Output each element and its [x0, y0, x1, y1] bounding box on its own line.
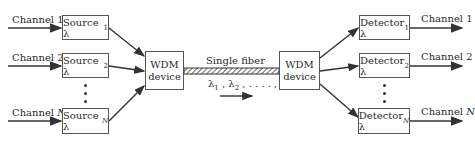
ellipsis-dot-icon: [84, 92, 87, 95]
output-channel-n-label: Channel N: [421, 106, 475, 118]
detector-n-label: Detector λ: [359, 110, 403, 132]
detector-n-subscript: N: [403, 117, 409, 125]
wdm-mux-box: WDM device: [145, 51, 184, 90]
ellipsis-dot-icon: [383, 100, 386, 103]
source-1-label: Source λ: [63, 17, 104, 39]
output-channel-1-text: Channel 1: [421, 13, 473, 24]
output-channel-n-index: N: [466, 106, 475, 117]
detector-1-subscript: 1: [405, 24, 409, 32]
output-channel-2-text: Channel 2: [421, 51, 473, 62]
output-channel-2-label: Channel 2: [421, 51, 473, 63]
detector-1-label: Detector λ: [360, 17, 405, 39]
source-2-subscript: 2: [104, 62, 108, 70]
wdm-demux-line1: WDM: [285, 59, 314, 71]
input-channel-n-text: Channel: [12, 107, 57, 118]
detector-box-1: Detector λ1: [359, 15, 410, 40]
detector-box-n: Detector λN: [358, 108, 410, 134]
source-box-2: Source λ2: [62, 53, 109, 78]
ellipsis-dot-icon: [84, 84, 87, 87]
input-channel-1-text: Channel 1: [12, 14, 64, 25]
detector-2-label: Detector λ: [360, 55, 405, 77]
ellipsis-dot-icon: [383, 84, 386, 87]
input-channel-n-label: Channel N: [12, 107, 66, 119]
wdm-demux-box: WDM device: [279, 51, 320, 90]
ellipsis-dot-icon: [383, 92, 386, 95]
ellipsis-dot-icon: [84, 100, 87, 103]
output-channel-n-text: Channel: [421, 106, 466, 117]
source-n-subscript: N: [102, 117, 108, 125]
source-box-1: Source λ1: [62, 15, 109, 40]
wdm-mux-line1: WDM: [150, 59, 179, 71]
wdm-demux-line2: device: [283, 71, 316, 83]
source-1-subscript: 1: [104, 24, 108, 32]
source-2-label: Source λ: [63, 55, 104, 77]
wdm-mux-line2: device: [148, 71, 181, 83]
source-box-n: Source λN: [62, 108, 109, 134]
detector-2-subscript: 2: [405, 62, 409, 70]
source-n-label: Source λ: [63, 110, 102, 132]
detector-box-2: Detector λ2: [359, 53, 410, 78]
fiber-label: Single fiber: [206, 55, 265, 67]
input-channel-2-text: Channel 2: [12, 52, 64, 63]
output-channel-1-label: Channel 1: [421, 13, 473, 25]
input-channel-1-label: Channel 1: [12, 14, 64, 26]
input-channel-2-label: Channel 2: [12, 52, 64, 64]
